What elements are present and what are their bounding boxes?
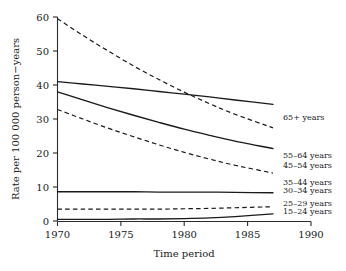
y-tick-label-40: 40 — [36, 80, 49, 91]
series-line-35-44 — [58, 109, 273, 173]
series-label-30-34: 30–34 years — [283, 186, 332, 195]
y-tick-label-0: 0 — [43, 216, 49, 227]
y-axis-title: Rate per 100 000 person−years — [10, 38, 21, 200]
line-chart: 0 10 20 30 40 50 60 1970 1975 1980 1985 … — [0, 0, 346, 271]
series-line-55-64 — [58, 19, 273, 128]
x-axis-title: Time period — [153, 248, 215, 259]
y-tick-label-30: 30 — [36, 114, 49, 125]
y-tick-label-10: 10 — [36, 182, 49, 193]
series-line-25-29 — [58, 207, 273, 209]
series-label-65plus: 65+ years — [283, 113, 324, 122]
y-tick-label-60: 60 — [36, 12, 49, 23]
y-tick-label-50: 50 — [36, 46, 49, 57]
chart-container: 0 10 20 30 40 50 60 1970 1975 1980 1985 … — [0, 0, 346, 271]
x-tick-label-1980: 1980 — [171, 229, 196, 240]
x-tick-label-1970: 1970 — [45, 229, 70, 240]
series-label-55-64: 55–64 years — [283, 151, 332, 160]
x-tick-label-1990: 1990 — [298, 229, 323, 240]
series-line-65plus — [58, 82, 273, 105]
y-tick-label-20: 20 — [36, 148, 49, 159]
x-tick-label-1985: 1985 — [235, 229, 260, 240]
series-lines — [58, 19, 273, 220]
series-line-15-24 — [58, 214, 273, 219]
x-axis-ticks — [58, 222, 312, 227]
x-tick-label-1975: 1975 — [108, 229, 133, 240]
y-axis-ticks — [53, 17, 58, 221]
series-label-15-24: 15–24 years — [283, 207, 332, 216]
series-line-30-34 — [58, 192, 273, 193]
series-label-45-54: 45–54 years — [283, 161, 332, 170]
